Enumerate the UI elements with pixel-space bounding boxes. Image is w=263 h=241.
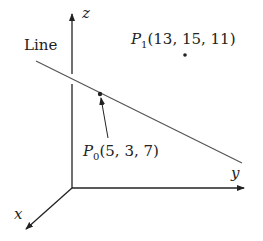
z-axis-label: z: [82, 4, 90, 22]
p1-dot: [183, 53, 187, 57]
p0-dot: [98, 92, 102, 96]
x-axis: [26, 188, 72, 229]
p1-label: P1(13, 15, 11): [131, 30, 236, 50]
line-label: Line: [24, 36, 57, 54]
x-axis-label: x: [14, 205, 22, 223]
diagram: z y x Line P1(13, 15, 11) P0(5, 3, 7): [0, 0, 263, 241]
p0-pointer-arrow: [101, 98, 108, 138]
y-axis-label: y: [231, 164, 239, 182]
p0-label: P0(5, 3, 7): [83, 142, 159, 162]
